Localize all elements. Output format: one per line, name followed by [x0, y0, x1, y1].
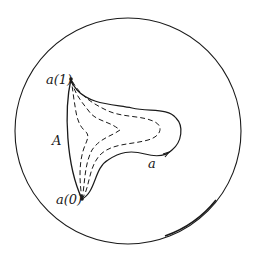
homotopy-diagram: a(1) a(0) A a	[0, 0, 254, 258]
label-arc-A: A	[51, 133, 61, 148]
homotopy-curve-2	[71, 79, 120, 199]
label-a0: a(0)	[56, 192, 82, 207]
label-path-a: a	[148, 156, 156, 171]
label-a1: a(1)	[46, 72, 72, 87]
disk-boundary-thick-edge	[165, 200, 216, 236]
